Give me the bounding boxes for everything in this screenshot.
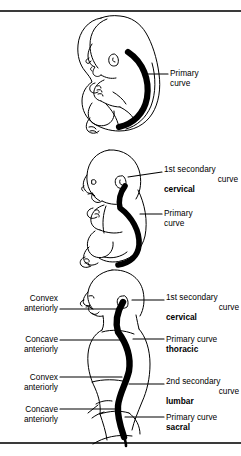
label-line: 2nd secondary: [166, 376, 239, 386]
label-line: 1st secondary: [166, 292, 239, 302]
leader-infant-cervical: [128, 172, 162, 177]
label-concave-anteriorly-thoracic: Concave anteriorly: [4, 334, 58, 354]
label-line-bold: cervical: [164, 184, 238, 194]
label-line: Primary curve: [166, 334, 217, 344]
label-line: Primary curve: [166, 412, 217, 422]
infant-spine-curves: [118, 186, 139, 265]
adult-figure: [80, 270, 150, 444]
label-line: 1st secondary: [164, 164, 238, 174]
label-line: Concave: [4, 334, 58, 344]
label-concave-anteriorly-sacral: Concave anteriorly: [4, 404, 58, 424]
label-line: Primary: [170, 68, 199, 78]
label-line: curve: [166, 302, 239, 312]
label-line: curve: [164, 218, 193, 228]
label-line: anteriorly: [4, 382, 58, 392]
label-line: anteriorly: [4, 344, 58, 354]
label-line: curve: [164, 174, 238, 184]
label-line: anteriorly: [4, 303, 58, 313]
label-line: Convex: [4, 372, 58, 382]
label-line-bold: lumbar: [166, 396, 239, 406]
label-adult-primary-curve-thoracic: Primary curve thoracic: [166, 334, 217, 354]
label-line: Concave: [4, 404, 58, 414]
label-line: curve: [170, 78, 199, 88]
label-line-bold: cervical: [166, 312, 239, 322]
label-adult-second-secondary-lumbar: 2nd secondary curve lumbar: [166, 376, 239, 407]
label-adult-first-secondary-cervical: 1st secondary curve cervical: [166, 292, 239, 323]
label-infant-primary-curve: Primary curve: [164, 208, 193, 228]
label-convex-anteriorly-lumbar: Convex anteriorly: [4, 372, 58, 392]
fetal-primary-curve-spine: [119, 52, 148, 127]
label-line: Convex: [4, 293, 58, 303]
label-line: anteriorly: [4, 414, 58, 424]
label-infant-first-secondary-cervical: 1st secondary curve cervical: [164, 164, 238, 195]
label-adult-primary-curve-sacral: Primary curve sacral: [166, 412, 217, 432]
label-line: Primary: [164, 208, 193, 218]
label-line-bold: sacral: [166, 422, 217, 432]
label-line-bold: thoracic: [166, 344, 217, 354]
label-line: curve: [166, 386, 239, 396]
figure-canvas: Primary curve 1st secondary curve cervic…: [0, 0, 241, 456]
label-convex-anteriorly-cervical: Convex anteriorly: [4, 293, 58, 313]
label-fetal-primary-curve: Primary curve: [170, 68, 199, 88]
